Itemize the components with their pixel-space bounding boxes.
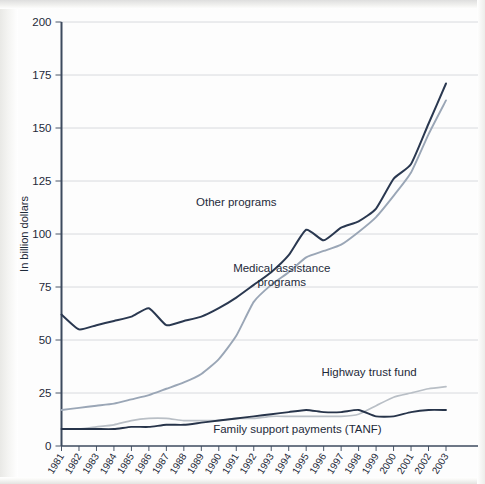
y-axis-ticks-group: 0255075100125150175200 (32, 16, 61, 452)
x-tick-label: 1994 (272, 451, 293, 476)
x-tick-label: 1992 (237, 451, 258, 476)
y-tick-label: 25 (39, 387, 52, 399)
x-tick-label: 1997 (325, 451, 346, 476)
x-tick-label: 1998 (342, 451, 363, 476)
series-label-3: Family support payments (TANF) (213, 423, 382, 435)
x-tick-label: 1995 (290, 451, 311, 476)
x-tick-label: 2002 (412, 451, 433, 476)
x-tick-label: 1990 (202, 451, 223, 476)
y-tick-label: 50 (39, 334, 52, 346)
y-tick-label: 75 (39, 281, 52, 293)
x-tick-label: 2000 (377, 451, 398, 476)
x-tick-label: 1984 (98, 451, 119, 476)
y-tick-label: 175 (32, 69, 51, 81)
x-tick-label: 1999 (360, 451, 381, 476)
series-line-1 (62, 100, 447, 410)
x-tick-label: 1989 (185, 451, 206, 476)
x-tick-label: 1986 (132, 451, 153, 476)
x-tick-label: 2001 (395, 451, 416, 476)
x-tick-label: 1985 (115, 451, 136, 476)
x-tick-label: 2003 (430, 451, 451, 476)
series-label-2: Highway trust fund (321, 366, 416, 378)
x-axis-ticks-group: 1981198219831984198519861987198819891990… (45, 446, 451, 476)
y-tick-label: 0 (45, 440, 51, 452)
y-axis-title-group: In billion dollars (18, 196, 30, 272)
y-tick-label: 100 (32, 228, 51, 240)
series-label-0: Other programs (196, 196, 277, 208)
series-labels-group: Other programsMedical assistanceprograms… (196, 196, 417, 435)
x-tick-label: 1988 (167, 451, 188, 476)
y-tick-label: 150 (32, 122, 51, 134)
series-label-1: Medical assistance (233, 262, 330, 274)
y-tick-label: 200 (32, 16, 51, 28)
x-tick-label: 1983 (80, 451, 101, 476)
line-chart: 0255075100125150175200 19811982198319841… (0, 0, 485, 484)
x-tick-label: 1991 (220, 451, 241, 476)
x-tick-label: 1996 (307, 451, 328, 476)
x-tick-label: 1993 (255, 451, 276, 476)
y-axis-title: In billion dollars (18, 196, 30, 272)
series-label-1-line2: programs (257, 276, 306, 288)
chart-figure: 0255075100125150175200 19811982198319841… (0, 0, 485, 484)
y-tick-label: 125 (32, 175, 51, 187)
x-tick-label: 1981 (45, 451, 66, 476)
x-tick-label: 1987 (150, 451, 171, 476)
x-tick-label: 1982 (63, 451, 84, 476)
